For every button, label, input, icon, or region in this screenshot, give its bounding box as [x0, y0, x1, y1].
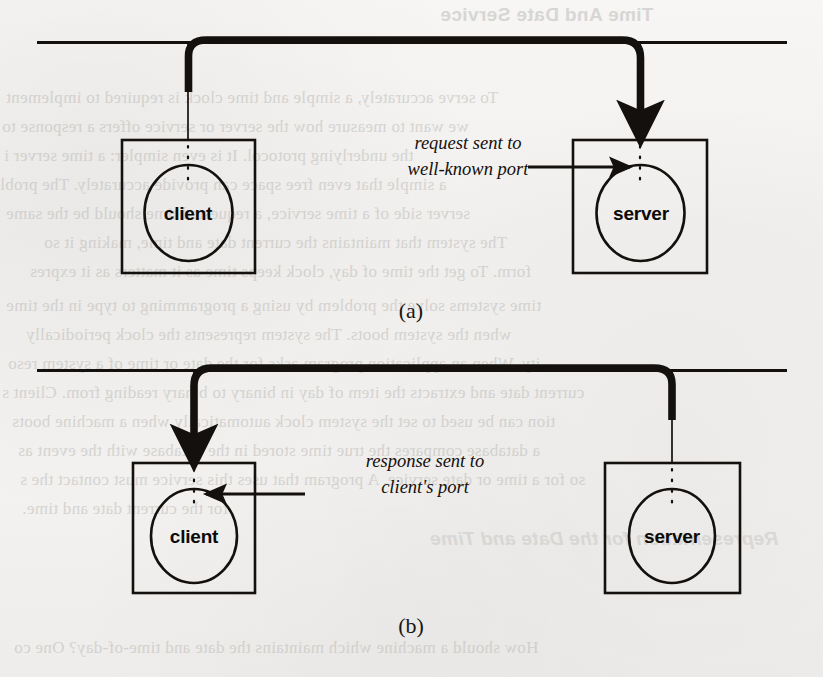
client-node-label-a: client [164, 203, 212, 225]
panel-label-b: (b) [381, 613, 441, 639]
panel-label-a: (a) [381, 298, 441, 324]
figure-diagram [0, 0, 823, 677]
annotation-line-1: request sent to [373, 130, 563, 156]
client-node-label-b: client [170, 526, 218, 548]
annotation-response-b: response sent to client's port [320, 448, 530, 500]
annotation-line-2: client's port [320, 474, 530, 500]
server-node-label-a: server [613, 203, 669, 225]
message-flow-arrow-a [189, 40, 641, 124]
annotation-line-1: response sent to [320, 448, 530, 474]
annotation-request-a: request sent to well-known port [373, 130, 563, 182]
server-node-label-b: server [644, 526, 700, 548]
annotation-line-2: well-known port [373, 156, 563, 182]
message-flow-arrow-b [194, 368, 672, 448]
figure-page: Time And Date Service To serve accuratel… [0, 0, 823, 677]
